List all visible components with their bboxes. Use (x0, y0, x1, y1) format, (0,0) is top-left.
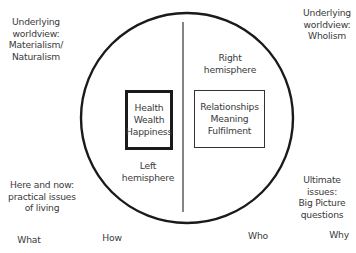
label-line: Naturalism (8, 51, 64, 63)
word-how: How (100, 232, 124, 244)
label-line: hemisphere (116, 172, 180, 184)
label-line: Wholism (298, 30, 356, 42)
box-line: Meaning (211, 113, 249, 125)
label-line: Right (198, 52, 262, 64)
label-line: Big Picture (290, 197, 354, 209)
worldview-wholism-label: Underlying worldview: Wholism (298, 7, 356, 42)
right-hemisphere-label: Right hemisphere (198, 52, 262, 75)
label-line: worldview: (8, 28, 64, 40)
label-line: Materialism/ (8, 39, 64, 51)
word-what: What (14, 234, 44, 246)
label-line: Here and now: (4, 179, 80, 191)
label-line: Ultimate (290, 174, 354, 186)
box-line: Fulfilment (208, 125, 252, 137)
relationships-meaning-fulfilment-box: Relationships Meaning Fulfilment (194, 90, 265, 148)
hemisphere-diagram: Underlying worldview: Materialism/ Natur… (0, 0, 356, 253)
label-line: issues: (290, 186, 354, 198)
here-and-now-label: Here and now: practical issues of living (4, 179, 80, 214)
label-line: of living (4, 202, 80, 214)
health-wealth-happiness-box: Health Wealth Happiness (125, 90, 173, 150)
label-line: questions (290, 209, 354, 221)
label-line: practical issues (4, 191, 80, 203)
label-line: Underlying (8, 16, 64, 28)
label-line: hemisphere (198, 64, 262, 76)
box-line: Health (135, 102, 164, 114)
word-who: Who (245, 230, 271, 242)
box-line: Wealth (134, 114, 165, 126)
left-hemisphere-label: Left hemisphere (116, 160, 180, 183)
box-line: Relationships (200, 101, 259, 113)
ultimate-issues-label: Ultimate issues: Big Picture questions (290, 174, 354, 220)
word-why: Why (326, 229, 352, 241)
box-line: Happiness (126, 126, 172, 138)
label-line: Underlying (298, 7, 356, 19)
worldview-materialism-label: Underlying worldview: Materialism/ Natur… (8, 16, 64, 62)
label-line: Left (116, 160, 180, 172)
label-line: worldview: (298, 19, 356, 31)
